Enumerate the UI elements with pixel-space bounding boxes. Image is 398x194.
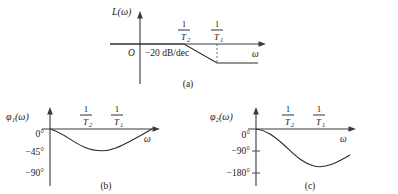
- panel-c-x-axis-label: ω: [340, 134, 347, 144]
- panel-c-t1-numerator: 1: [317, 104, 322, 114]
- panel-a-break-frequency-t1: 1 T 1: [211, 19, 223, 43]
- panel-b-ytick-minus90: −90°: [25, 168, 44, 178]
- panel-c-y-axis-arrow: [253, 107, 259, 115]
- panel-a-y-axis-label: L(ω): [111, 6, 132, 18]
- panel-c-x-axis-arrow: [349, 126, 357, 132]
- panel-a-break-frequency-t2: 1 T 2: [178, 19, 191, 43]
- panel-b-caption: (b): [100, 181, 111, 192]
- panel-a-t1-subscript: 1: [220, 36, 223, 43]
- panel-a-x-axis-arrow: [259, 41, 267, 47]
- panel-a-t1-numerator: 1: [215, 19, 220, 29]
- panel-c-t2-numerator: 1: [286, 104, 291, 114]
- panel-c-y-axis-label: φ₂(ω): [210, 111, 233, 123]
- panel-b-t2-numerator: 1: [84, 104, 89, 114]
- panel-c-svg: φ₂(ω) ω 0° −90° −180° 1 T 2 1 T 1 (c: [200, 92, 396, 192]
- panel-b-phase1: φ₁(ω) ω 0° −45° −90° 1 T 2 1 T 1 (b): [2, 92, 198, 192]
- panel-c-phase-curve: [256, 129, 350, 167]
- panel-b-break-frequency-t1: 1 T 1: [111, 104, 123, 128]
- panel-c-t1-subscript: 1: [322, 121, 325, 128]
- panel-c-ytick-minus180: −180°: [227, 168, 251, 178]
- panel-a-t2-numerator: 1: [182, 19, 187, 29]
- panel-a-x-axis-label: ω: [252, 49, 259, 59]
- panel-b-y-axis-arrow: [47, 107, 53, 115]
- panel-a-t2-subscript: 2: [187, 36, 191, 43]
- panel-b-ytick-0: 0°: [35, 129, 44, 139]
- panel-a-origin-label: O: [128, 48, 135, 58]
- panel-b-y-axis-label: φ₁(ω): [6, 111, 29, 123]
- panel-b-svg: φ₁(ω) ω 0° −45° −90° 1 T 2 1 T 1 (b): [2, 92, 198, 192]
- panel-a-svg: L(ω) ω O −20 dB/dec 1 T 2 1 T 1 (a: [100, 2, 300, 92]
- panel-b-t1-numerator: 1: [115, 104, 120, 114]
- panel-c-t2-subscript: 2: [291, 121, 295, 128]
- panel-c-phase2: φ₂(ω) ω 0° −90° −180° 1 T 2 1 T 1 (c: [200, 92, 396, 192]
- panel-b-x-axis-arrow: [153, 126, 161, 132]
- panel-b-x-axis-label: ω: [144, 134, 151, 144]
- panel-b-t2-subscript: 2: [89, 121, 93, 128]
- panel-a-slope-annotation: −20 dB/dec: [145, 48, 189, 58]
- bode-plot-figure: L(ω) ω O −20 dB/dec 1 T 2 1 T 1 (a: [0, 0, 398, 194]
- panel-c-caption: (c): [305, 181, 316, 192]
- panel-c-break-frequency-t1: 1 T 1: [313, 104, 325, 128]
- panel-c-ytick-0: 0°: [241, 130, 250, 140]
- panel-a-caption: (a): [183, 79, 194, 90]
- panel-a-magnitude: L(ω) ω O −20 dB/dec 1 T 2 1 T 1 (a: [100, 2, 300, 92]
- panel-a-y-axis-arrow: [137, 11, 143, 19]
- panel-b-t1-subscript: 1: [120, 121, 123, 128]
- panel-b-break-frequency-t2: 1 T 2: [80, 104, 93, 128]
- panel-c-break-frequency-t2: 1 T 2: [282, 104, 295, 128]
- panel-b-ytick-minus45: −45°: [25, 147, 44, 157]
- panel-b-phase-curve: [50, 129, 152, 151]
- panel-c-ytick-minus90: −90°: [231, 146, 250, 156]
